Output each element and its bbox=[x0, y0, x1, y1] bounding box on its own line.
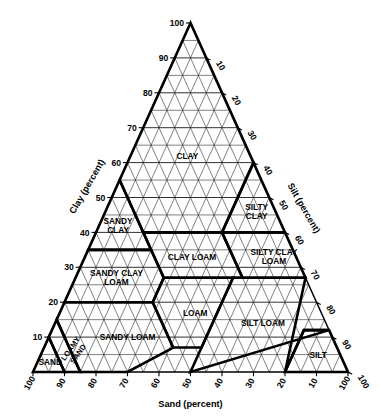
tick-label-clay-80: 80 bbox=[143, 88, 153, 98]
tick-label-clay-50: 50 bbox=[96, 193, 106, 203]
gridline-silt-95 bbox=[332, 355, 340, 372]
soil-texture-triangle-figure: 1020304050607080901001020304050607080901… bbox=[0, 0, 381, 417]
tick-label-sand-3: 70 bbox=[117, 376, 131, 389]
tick-label-sand-8: 20 bbox=[275, 376, 289, 389]
axis-title-clay: Clay (percent) bbox=[67, 158, 106, 216]
tick-label-sand-1: 90 bbox=[54, 376, 68, 389]
ternary-plot-svg: 1020304050607080901001020304050607080901… bbox=[0, 0, 381, 417]
tick-label-clay-30: 30 bbox=[64, 262, 74, 272]
class-label-sandy-clay: SANDYCLAY bbox=[104, 216, 134, 235]
class-label-silty-clay-loam: SILTY CLAYLOAM bbox=[251, 247, 298, 266]
tick-label-silt-40: 40 bbox=[261, 164, 275, 177]
gridline-silt-65 bbox=[238, 250, 293, 372]
class-label-clay-loam: CLAY LOAM bbox=[168, 252, 216, 262]
class-label-text: LOAM bbox=[262, 256, 287, 266]
axis-title-sand: Sand (percent) bbox=[158, 399, 222, 409]
class-label-silt-loam: SILT LOAM bbox=[241, 318, 285, 328]
gridline-sand-55 bbox=[104, 215, 175, 372]
tick-label-silt-100: 100 bbox=[356, 373, 372, 391]
class-label-silty-clay: SILTYCLAY bbox=[245, 202, 268, 221]
class-label-text: SANDY LOAM bbox=[100, 332, 156, 342]
tick-label-clay-90: 90 bbox=[159, 53, 169, 63]
tick-label-sand-10: 100 bbox=[336, 374, 352, 392]
tick-label-silt-80: 80 bbox=[324, 303, 338, 316]
tick-label-silt-70: 70 bbox=[309, 268, 323, 281]
class-label-text: SILT bbox=[309, 350, 326, 360]
class-label-text: CLAY bbox=[246, 211, 268, 221]
tick-label-silt-60: 60 bbox=[293, 233, 307, 246]
tick-label-sand-5: 50 bbox=[180, 376, 194, 389]
class-label-clay: CLAY bbox=[176, 151, 198, 161]
tick-label-sand-9: 10 bbox=[306, 376, 320, 389]
tick-label-clay-40: 40 bbox=[80, 228, 90, 238]
axis-title-silt: Silt (percent) bbox=[285, 181, 322, 235]
class-label-loam: LOAM bbox=[183, 308, 208, 318]
tick-label-sand-2: 80 bbox=[86, 376, 100, 389]
tick-label-sand-7: 30 bbox=[243, 376, 257, 389]
gridline-silt-85 bbox=[301, 320, 325, 372]
tick-label-clay-20: 20 bbox=[48, 297, 58, 307]
tick-label-sand-4: 60 bbox=[149, 376, 163, 389]
tick-label-silt-10: 10 bbox=[214, 59, 228, 72]
tick-label-silt-30: 30 bbox=[246, 129, 260, 142]
tick-label-clay-100: 100 bbox=[170, 18, 185, 28]
tick-label-sand-0: 100 bbox=[21, 374, 37, 392]
gridline-sand-25 bbox=[151, 110, 269, 372]
class-label-sand: SAND bbox=[39, 357, 63, 367]
tick-label-clay-70: 70 bbox=[127, 123, 137, 133]
class-label-text: SILT LOAM bbox=[241, 318, 285, 328]
class-label-silt: SILT bbox=[309, 350, 326, 360]
class-label-text: LOAM bbox=[183, 308, 208, 318]
class-label-text: LOAM bbox=[104, 277, 129, 287]
class-label-text: CLAY LOAM bbox=[168, 252, 216, 262]
tick-label-clay-10: 10 bbox=[33, 332, 43, 342]
class-label-loamy-sand: LOAMYSAND bbox=[59, 335, 90, 368]
class-label-sandy-loam: SANDY LOAM bbox=[100, 332, 156, 342]
class-label-text: CLAY bbox=[176, 151, 198, 161]
tick-label-silt-50: 50 bbox=[277, 199, 291, 212]
tick-label-sand-6: 40 bbox=[212, 376, 226, 389]
tick-label-silt-90: 90 bbox=[340, 338, 354, 351]
class-label-text: CLAY bbox=[107, 225, 129, 235]
tick-label-clay-60: 60 bbox=[111, 158, 121, 168]
tick-label-silt-20: 20 bbox=[230, 94, 244, 107]
class-labels: CLAYSILTYCLAYSILTY CLAYLOAMSANDYCLAYCLAY… bbox=[39, 151, 327, 368]
class-label-text: SAND bbox=[39, 357, 63, 367]
